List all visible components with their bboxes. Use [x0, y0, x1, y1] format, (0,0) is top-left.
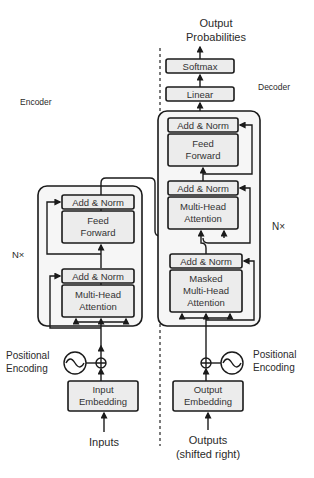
softmax-label: Softmax	[183, 61, 218, 72]
transformer-diagram: Encoder Decoder Add & Norm Feed Forward …	[0, 0, 314, 478]
decoder-masked-label-3: Attention	[187, 297, 225, 308]
encoder-add-norm-bottom-label: Add & Norm	[72, 271, 124, 282]
encoder-repeat-label: N×	[12, 249, 24, 260]
encoder-mha-label-1: Multi-Head	[75, 289, 121, 300]
encoder-feed-forward-label-2: Forward	[81, 227, 116, 238]
input-embedding-label-1: Input	[92, 384, 113, 395]
decoder-masked-label-1: Masked	[189, 273, 222, 284]
encoder-feed-forward-label-1: Feed	[87, 215, 109, 226]
output-embedding-label-2: Embedding	[184, 396, 232, 407]
decoder-ff-label-1: Feed	[192, 138, 214, 149]
decoder-positional-label-2: Encoding	[253, 362, 295, 373]
output-embedding-label-1: Output	[194, 384, 223, 395]
output-probabilities-label-1: Output	[199, 17, 232, 29]
decoder-mha-label-1: Multi-Head	[180, 201, 226, 212]
outputs-label-2: (shifted right)	[176, 448, 240, 460]
decoder-stack: Add & Norm Feed Forward Add & Norm Multi…	[158, 111, 260, 346]
encoder-label: Encoder	[20, 97, 52, 107]
decoder-add-norm-1-label: Add & Norm	[177, 120, 229, 131]
decoder-label: Decoder	[258, 82, 290, 92]
encoder-positional-label-1: Positional	[6, 350, 49, 361]
decoder-repeat-label: N×	[272, 221, 285, 232]
output-probabilities-label-2: Probabilities	[186, 31, 246, 43]
encoder-add-norm-top-label: Add & Norm	[72, 197, 124, 208]
encoder-mha-label-2: Attention	[79, 301, 117, 312]
encoder-positional-label-2: Encoding	[6, 363, 48, 374]
decoder-ff-label-2: Forward	[186, 150, 221, 161]
input-embedding-label-2: Embedding	[79, 396, 127, 407]
decoder-add-norm-2-label: Add & Norm	[177, 183, 229, 194]
outputs-label-1: Outputs	[189, 434, 228, 446]
linear-label: Linear	[187, 89, 213, 100]
encoder-stack: Add & Norm Feed Forward Add & Norm Multi…	[38, 178, 176, 346]
inputs-label: Inputs	[89, 436, 119, 448]
decoder-positional-label-1: Positional	[253, 349, 296, 360]
decoder-masked-label-2: Multi-Head	[183, 285, 229, 296]
decoder-mha-label-2: Attention	[184, 213, 222, 224]
decoder-add-norm-3-label: Add & Norm	[180, 256, 232, 267]
